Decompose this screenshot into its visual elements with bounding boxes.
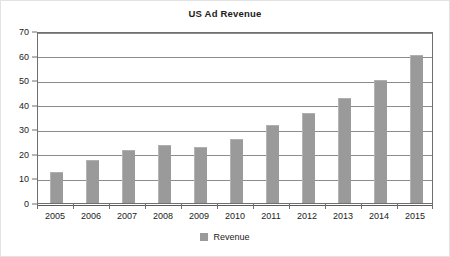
x-tick-mark-9 <box>397 204 398 209</box>
bar-2013 <box>338 98 351 203</box>
y-tick-label-50: 50 <box>19 76 29 86</box>
bar-2009 <box>194 147 207 203</box>
y-tick-label-70: 70 <box>19 27 29 37</box>
x-tick-label-2008: 2008 <box>153 211 173 221</box>
x-tick-label-2010: 2010 <box>225 211 245 221</box>
legend-swatch-revenue <box>200 233 208 241</box>
x-tick-mark-6 <box>289 204 290 209</box>
chart-legend: Revenue <box>1 232 449 242</box>
y-tick-label-40: 40 <box>19 101 29 111</box>
y-axis: 010203040506070 <box>1 32 37 204</box>
x-tick-label-2006: 2006 <box>81 211 101 221</box>
bar-2007 <box>122 150 135 203</box>
x-tick-mark-5 <box>253 204 254 209</box>
legend-label-revenue: Revenue <box>213 232 249 242</box>
x-tick-mark-2 <box>145 204 146 209</box>
x-tick-mark-0 <box>73 204 74 209</box>
x-tick-label-2007: 2007 <box>117 211 137 221</box>
bar-2011 <box>266 125 279 203</box>
y-tick-label-0: 0 <box>24 199 29 209</box>
x-tick-mark-start <box>37 204 38 209</box>
x-tick-mark-8 <box>361 204 362 209</box>
x-tick-mark-1 <box>109 204 110 209</box>
x-tick-mark-7 <box>325 204 326 209</box>
bar-2015 <box>410 55 423 203</box>
x-tick-label-2011: 2011 <box>261 211 280 221</box>
bar-series-revenue <box>38 33 432 203</box>
bar-2012 <box>302 113 315 203</box>
x-tick-label-2013: 2013 <box>333 211 353 221</box>
bar-2005 <box>50 172 63 203</box>
x-axis: 2005200620072008200920102011201220132014… <box>37 204 433 228</box>
x-tick-mark-10 <box>432 204 433 209</box>
bar-2008 <box>158 145 171 203</box>
bar-2010 <box>230 139 243 203</box>
y-tick-label-60: 60 <box>19 52 29 62</box>
bar-2006 <box>86 160 99 203</box>
y-tick-label-30: 30 <box>19 125 29 135</box>
x-tick-label-2009: 2009 <box>189 211 209 221</box>
plot-area <box>37 32 433 204</box>
x-tick-mark-3 <box>181 204 182 209</box>
x-tick-label-2015: 2015 <box>405 211 425 221</box>
x-tick-label-2005: 2005 <box>45 211 65 221</box>
y-tick-label-10: 10 <box>19 174 29 184</box>
bar-2014 <box>374 80 387 203</box>
x-tick-label-2014: 2014 <box>369 211 389 221</box>
x-tick-mark-4 <box>217 204 218 209</box>
x-tick-label-2012: 2012 <box>297 211 317 221</box>
chart-figure: US Ad Revenue 010203040506070 2005200620… <box>0 0 450 257</box>
y-tick-label-20: 20 <box>19 150 29 160</box>
chart-title: US Ad Revenue <box>1 8 449 19</box>
